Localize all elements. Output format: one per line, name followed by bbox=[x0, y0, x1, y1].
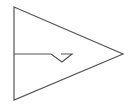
inner-line-mark bbox=[14, 54, 72, 62]
diagram-canvas bbox=[0, 0, 129, 108]
